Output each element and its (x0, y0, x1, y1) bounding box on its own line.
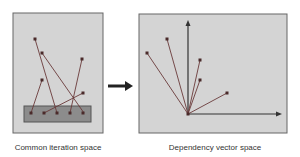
point-marker (82, 92, 85, 95)
caption-dependency-vector-space: Dependency vector space (135, 143, 295, 152)
point-marker (69, 112, 72, 115)
point-marker (41, 79, 44, 82)
point-marker (166, 38, 169, 41)
point-marker (82, 112, 85, 115)
point-marker (146, 52, 149, 55)
point-marker (30, 112, 33, 115)
point-marker (34, 38, 37, 41)
point-marker (56, 112, 59, 115)
transform-arrow-icon (108, 81, 133, 91)
point-marker (41, 52, 44, 55)
point-marker (81, 58, 84, 61)
caption-common-iteration-space: Common iteration space (8, 143, 108, 152)
point-marker (43, 112, 46, 115)
point-marker (199, 79, 202, 82)
point-marker (187, 113, 190, 116)
point-marker (199, 59, 202, 62)
diagram-canvas (0, 0, 300, 157)
point-marker (226, 92, 229, 95)
